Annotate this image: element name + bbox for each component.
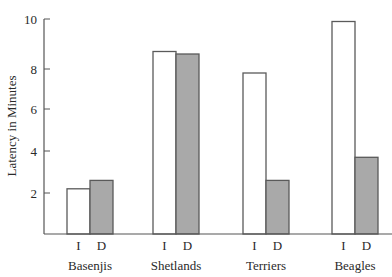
bars bbox=[67, 22, 378, 235]
condition-label: D bbox=[273, 238, 282, 253]
y-tick-label: 6 bbox=[31, 102, 38, 117]
bar-chart: Latency in Minutes 246810 IDBasenjisIDSh… bbox=[0, 0, 392, 277]
category-label-basenjis: Basenjis bbox=[68, 258, 112, 273]
y-tick-label: 4 bbox=[31, 144, 38, 159]
condition-label: I bbox=[252, 238, 256, 253]
condition-label: I bbox=[341, 238, 345, 253]
category-label-shetlands: Shetlands bbox=[151, 258, 202, 273]
y-axis-label: Latency in Minutes bbox=[4, 75, 19, 176]
condition-label: D bbox=[362, 238, 371, 253]
x-axis-labels: IDBasenjisIDShetlandsIDTerriersIDBeagles bbox=[68, 238, 376, 273]
y-axis-ticks: 246810 bbox=[24, 12, 50, 201]
bar-basenjis-d bbox=[90, 180, 113, 234]
condition-label: D bbox=[183, 238, 192, 253]
category-label-terriers: Terriers bbox=[246, 258, 286, 273]
condition-label: I bbox=[162, 238, 166, 253]
bar-terriers-i bbox=[243, 73, 266, 234]
y-tick-label: 10 bbox=[24, 12, 37, 27]
bar-shetlands-i bbox=[153, 52, 176, 235]
y-tick-label: 2 bbox=[31, 186, 38, 201]
bar-shetlands-d bbox=[176, 54, 199, 234]
condition-label: I bbox=[76, 238, 80, 253]
category-label-beagles: Beagles bbox=[334, 258, 375, 273]
bar-basenjis-i bbox=[67, 189, 90, 234]
condition-label: D bbox=[97, 238, 106, 253]
bar-beagles-i bbox=[332, 22, 355, 235]
bar-beagles-d bbox=[355, 157, 378, 234]
bar-terriers-d bbox=[266, 180, 289, 234]
y-tick-label: 8 bbox=[31, 62, 38, 77]
